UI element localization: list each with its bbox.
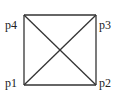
label-p2: p2: [99, 76, 111, 90]
square-diagram: p4 p3 p1 p2: [0, 0, 118, 98]
label-p3: p3: [99, 18, 111, 32]
label-p1: p1: [5, 76, 17, 90]
label-p4: p4: [5, 18, 17, 32]
